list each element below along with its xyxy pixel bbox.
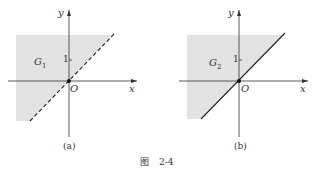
x-axis-label: x (300, 84, 306, 94)
region-g2-shading (187, 35, 284, 119)
caption-prefix: 图 (140, 158, 149, 167)
panel-a-graph (8, 10, 137, 137)
tick-label: 1 (233, 55, 239, 64)
origin-label: O (241, 84, 249, 94)
x-axis-label: x (129, 84, 135, 94)
region-g1-shading (16, 35, 113, 121)
origin-label: O (70, 84, 78, 94)
panel-b-label: (b) (234, 142, 247, 151)
panel-b-graph (179, 10, 308, 137)
caption-number: 2-4 (159, 158, 174, 167)
region-label-g2: G2 (209, 58, 221, 71)
y-axis-label: y (58, 8, 64, 18)
y-axis-arrow-icon (67, 10, 71, 16)
tick-label: 1 (63, 55, 69, 64)
y-axis-arrow-icon (237, 10, 241, 16)
y-axis-label: y (228, 8, 234, 18)
region-label-g1: G1 (34, 57, 46, 70)
panel-a-label: (a) (63, 142, 75, 151)
figure-canvas (0, 0, 315, 175)
